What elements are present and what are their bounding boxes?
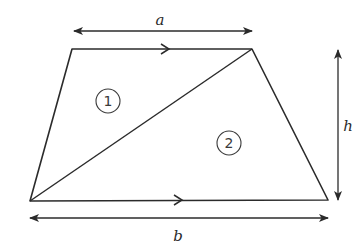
label-a: a bbox=[156, 11, 165, 29]
label-h: h bbox=[343, 117, 353, 135]
region-1-label: 1 bbox=[104, 93, 113, 109]
label-b: b bbox=[173, 227, 183, 245]
region-2-label: 2 bbox=[225, 135, 234, 151]
diagonal-line bbox=[30, 49, 252, 201]
trapezium-diagram: a h b 1 2 bbox=[0, 0, 364, 248]
trapezium-outline bbox=[30, 49, 328, 201]
